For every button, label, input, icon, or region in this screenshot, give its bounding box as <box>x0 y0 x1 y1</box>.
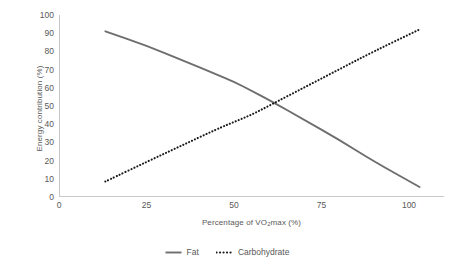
x-axis-title: Percentage of VO2max (%) <box>59 218 444 227</box>
legend-item[interactable]: Fat <box>165 247 199 257</box>
x-axis-tick-label: 25 <box>142 200 151 210</box>
plot-area <box>59 15 444 197</box>
y-axis-tick-label: 70 <box>26 65 54 74</box>
y-axis-tick-label: 30 <box>26 138 54 147</box>
legend-label: Carbohydrate <box>238 247 290 257</box>
x-axis-tick-label: 0 <box>57 200 62 210</box>
x-axis-title-prefix: Percentage of VO <box>202 218 267 227</box>
x-axis-title-suffix: max (%) <box>271 218 301 227</box>
y-axis-tick-labels: 0102030405060708090100 <box>26 11 54 201</box>
x-axis-tick-label: 75 <box>317 200 326 210</box>
series-line-carbohydrate <box>105 29 419 181</box>
legend-swatch-carbohydrate <box>216 248 233 257</box>
x-axis-tick-labels: 0255075100 <box>59 200 444 214</box>
y-axis-tick-label: 40 <box>26 120 54 129</box>
x-axis-tick-label: 100 <box>402 200 416 210</box>
y-axis-tick-label: 50 <box>26 102 54 111</box>
y-axis-tick-label: 90 <box>26 29 54 38</box>
y-axis-tick-label: 100 <box>26 11 54 20</box>
x-axis-tick-label: 50 <box>229 200 238 210</box>
y-axis-tick-label: 0 <box>26 193 54 202</box>
y-axis-tick-label: 80 <box>26 47 54 56</box>
y-axis-tick-label: 10 <box>26 174 54 183</box>
energy-contribution-chart: Energy contribution (%) 0102030405060708… <box>0 0 454 276</box>
y-axis-tick-label: 60 <box>26 83 54 92</box>
series-layer <box>105 29 419 186</box>
legend-label: Fat <box>187 247 199 257</box>
legend-item[interactable]: Carbohydrate <box>216 247 290 257</box>
y-axis-tick-label: 20 <box>26 156 54 165</box>
chart-legend: FatCarbohydrate <box>0 247 454 257</box>
plot-svg <box>60 15 444 196</box>
legend-swatch-fat <box>165 248 182 257</box>
